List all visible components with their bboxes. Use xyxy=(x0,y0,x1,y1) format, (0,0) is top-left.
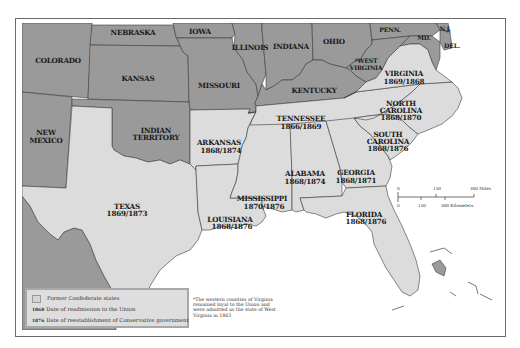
legend-readmission-label: Date of readmission to the Union xyxy=(46,306,135,312)
confederate-swatch xyxy=(32,295,41,303)
legend-conservative-label: Date of reestablishment of Conservative … xyxy=(46,317,188,323)
label-missouri: MISSOURI xyxy=(198,81,241,90)
label-arkansas-dates: 1868/1874 xyxy=(201,146,242,155)
label-ohio: OHIO xyxy=(323,37,345,46)
label-north-carolina-dates: 1868/1870 xyxy=(381,113,422,122)
label-colorado: COLORADO xyxy=(35,56,81,65)
label-new-mexico-2: MEXICO xyxy=(29,136,62,145)
label-indian-territory-2: TERRITORY xyxy=(133,133,181,142)
label-del: DEL. xyxy=(444,42,460,49)
scale-km-150: 150 xyxy=(418,203,426,208)
label-louisiana-dates: 1868/1876 xyxy=(212,222,253,231)
scale-km-0: 0 xyxy=(397,203,400,208)
label-tennessee-dates: 1866/1869 xyxy=(281,122,322,131)
label-florida-dates: 1868/1876 xyxy=(346,217,387,226)
scale-km-300: 300 Kilometers xyxy=(441,203,473,208)
legend-row-readmission: 1868Date of readmission to the Union xyxy=(32,306,135,312)
label-georgia-dates: 1868/1871 xyxy=(336,176,377,185)
scale-miles-300: 300 Miles xyxy=(470,186,491,191)
legend-swatch-label: Former Confederate states xyxy=(47,295,119,301)
label-kentucky: KENTUCKY xyxy=(291,86,337,95)
label-south-carolina-dates: 1868/1876 xyxy=(368,144,409,153)
label-west-virginia-2: VIRGINIA xyxy=(349,64,383,71)
label-virginia-dates: 1869/1868 xyxy=(384,77,425,86)
map-legend: Former Confederate states 1868Date of re… xyxy=(25,288,189,328)
label-nebraska: NEBRASKA xyxy=(111,28,156,37)
legend-key-conservative: 1876 xyxy=(32,318,44,323)
label-texas-dates: 1869/1873 xyxy=(107,209,148,218)
legend-row-conservative: 1876Date of reestablishment of Conservat… xyxy=(32,317,189,323)
west-virginia-footnote: *The western counties of Virginia remain… xyxy=(193,297,283,318)
label-iowa: IOWA xyxy=(189,27,212,36)
legend-row-confederate: Former Confederate states xyxy=(32,295,119,303)
label-mississippi-dates: 1870/1876 xyxy=(244,202,285,211)
label-md: MD. xyxy=(417,34,431,41)
label-alabama-dates: 1868/1874 xyxy=(285,177,326,186)
label-illinois: ILLINOIS xyxy=(232,43,269,52)
label-west-virginia-1: *WEST xyxy=(355,57,379,64)
label-penn: PENN. xyxy=(379,26,400,33)
label-kansas: KANSAS xyxy=(122,74,155,83)
label-nj: N.J. xyxy=(439,25,450,33)
label-indiana: INDIANA xyxy=(273,42,309,51)
legend-key-readmission: 1868 xyxy=(32,307,44,312)
scale-miles-150: 150 xyxy=(433,186,441,191)
scale-miles-0: 0 xyxy=(397,186,400,191)
